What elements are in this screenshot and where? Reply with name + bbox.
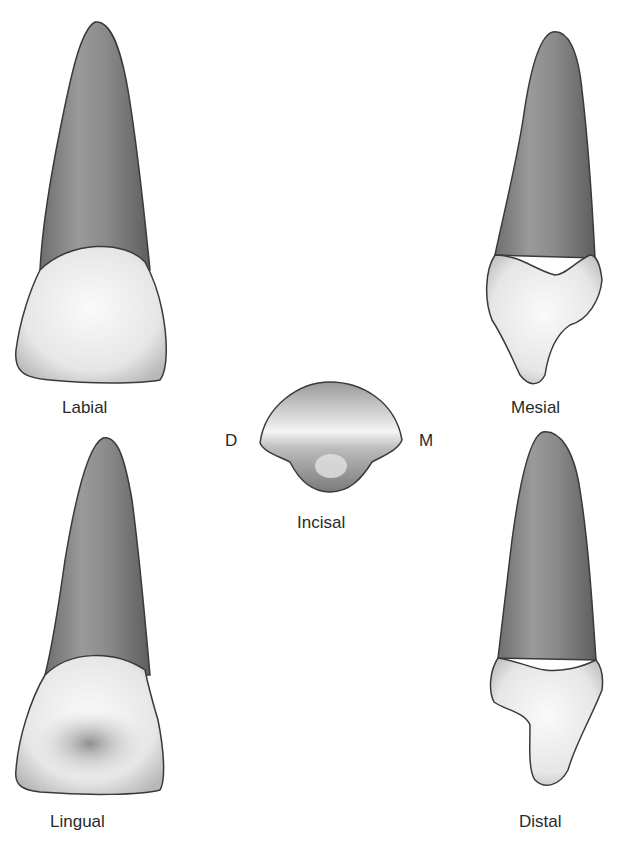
mesial-root (495, 32, 595, 258)
tooth-distal-view (491, 432, 603, 785)
incisal-marker-distal: D (225, 431, 237, 451)
distal-crown (491, 658, 603, 785)
incisal-lingual-cingulum (315, 454, 347, 478)
label-distal: Distal (519, 812, 562, 832)
tooth-labial-view (16, 22, 167, 383)
label-labial: Labial (62, 398, 107, 418)
label-lingual: Lingual (50, 812, 105, 832)
incisal-marker-mesial: M (419, 431, 433, 451)
tooth-lingual-view (16, 438, 164, 795)
labial-root (40, 22, 150, 270)
tooth-views-illustration (0, 0, 621, 842)
label-incisal: Incisal (297, 513, 345, 533)
tooth-incisal-view (260, 382, 402, 492)
label-mesial: Mesial (511, 398, 560, 418)
lingual-fossa (35, 705, 145, 775)
distal-root (498, 432, 596, 660)
lingual-root (45, 438, 150, 675)
labial-crown (16, 246, 167, 383)
tooth-mesial-view (487, 32, 602, 384)
mesial-crown (487, 255, 602, 384)
